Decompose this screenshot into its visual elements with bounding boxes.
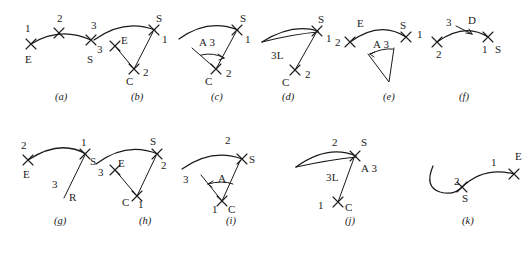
label-start-s: S [318,14,324,25]
label-length-3l: 3L [271,50,284,61]
angle-arrow-head [208,181,213,187]
radius-line [338,158,354,202]
caption-c: (c) [211,91,223,102]
label-end-e: E [121,35,128,46]
x-mark-e [509,169,519,179]
caption-e: (e) [383,91,395,102]
label-point-1: 1 [326,33,332,44]
caption-a: (a) [55,91,67,102]
caption-b: (b) [131,91,143,102]
label-end-e: E [23,169,30,180]
x-mark-c [290,65,300,75]
label-start-s: S [240,13,246,24]
label-angle-a3: A 3 [373,39,389,50]
label-end-e: E [515,151,522,162]
label-point-1: 1 [81,137,87,148]
label-start-s: S [361,137,367,148]
label-start-s: S [400,20,406,31]
caption-f: (f) [459,91,469,102]
figure-root: 1 2 3 E S (a) 3 E S 1 C 2 (b) [0,0,530,260]
label-end-e: E [25,54,32,65]
panel-f: 3 D S 1 2 [415,4,530,114]
x-mark-s [149,25,159,35]
caption-k: (k) [462,215,474,226]
label-point-3: 3 [98,167,104,178]
x-mark-s [483,32,493,42]
caption-d: (d) [282,91,294,102]
label-point-2: 2 [143,67,149,78]
x-mark-s [152,149,162,159]
label-end-e: E [357,18,364,29]
label-point-1: 1 [162,34,168,45]
label-point-2: 2 [161,160,167,171]
label-radius-r: R [69,192,77,203]
label-point-1: 1 [245,34,251,45]
label-point-1: 1 [318,200,324,211]
label-point-2: 2 [226,68,232,79]
x-mark-c [129,64,139,74]
x-mark-c [211,64,221,74]
x-mark-e [110,41,120,51]
label-point-1: 1 [482,44,488,55]
x-mark-e [23,155,33,165]
x-mark-s [350,151,360,161]
label-point-1: 1 [212,204,218,215]
label-center-c: C [126,76,134,87]
x-mark-mid [54,28,64,38]
label-start-s: S [249,154,255,165]
label-center-c: C [205,76,213,87]
label-point-2: 2 [454,176,460,187]
label-point-3: 3 [446,17,452,28]
label-point-3: 3 [183,174,189,185]
label-angle-a: A [218,173,226,184]
caption-g: (g) [54,215,66,226]
label-length-3l: 3L [326,172,339,183]
radius-line [295,33,316,70]
x-mark-e [345,37,355,47]
radius-line-start [216,32,236,69]
x-mark-start [26,39,36,49]
label-angle-a3: A 3 [199,37,215,48]
label-point-2: 2 [332,137,338,148]
arc-path [182,155,242,169]
x-mark-2 [432,37,442,47]
arc-path [96,149,158,164]
label-start-s: S [462,193,468,204]
continuation-arc-path [462,172,514,187]
label-end-e: E [118,158,125,169]
label-point-2: 2 [436,49,442,60]
radius-line-start [134,32,153,69]
x-mark-s [232,25,242,35]
label-direction-d: D [468,15,476,26]
x-mark-s [312,26,322,36]
label-center-c: C [282,77,290,88]
x-mark-s [401,32,411,42]
caption-h: (h) [139,215,151,226]
label-start-s: S [495,44,501,55]
label-point-2: 2 [57,13,63,24]
x-mark-c [217,196,227,206]
label-point-2: 2 [21,140,27,151]
label-point-3: 3 [97,44,103,55]
label-point-2: 2 [225,135,231,146]
caption-j: (j) [345,215,355,226]
label-point-2: 2 [305,69,311,80]
label-center-c: C [228,204,236,215]
label-angle-a3: A 3 [361,163,377,174]
radius-line-start [137,156,156,196]
label-center-c: C [345,202,353,213]
x-mark-c [333,197,343,207]
label-point-1: 1 [138,199,144,210]
label-start-s: S [156,13,162,24]
label-point-1: 1 [25,23,31,34]
chord-path-lower [296,157,356,167]
label-point-2: 2 [335,37,341,48]
arc-path [437,31,488,42]
label-point-3: 3 [52,179,58,190]
caption-i: (i) [226,215,236,226]
label-point-1: 1 [491,157,497,168]
label-start-s: S [150,136,156,147]
x-mark-s [237,154,247,164]
angle-arrow-head [370,52,375,57]
arc-path [28,148,86,160]
